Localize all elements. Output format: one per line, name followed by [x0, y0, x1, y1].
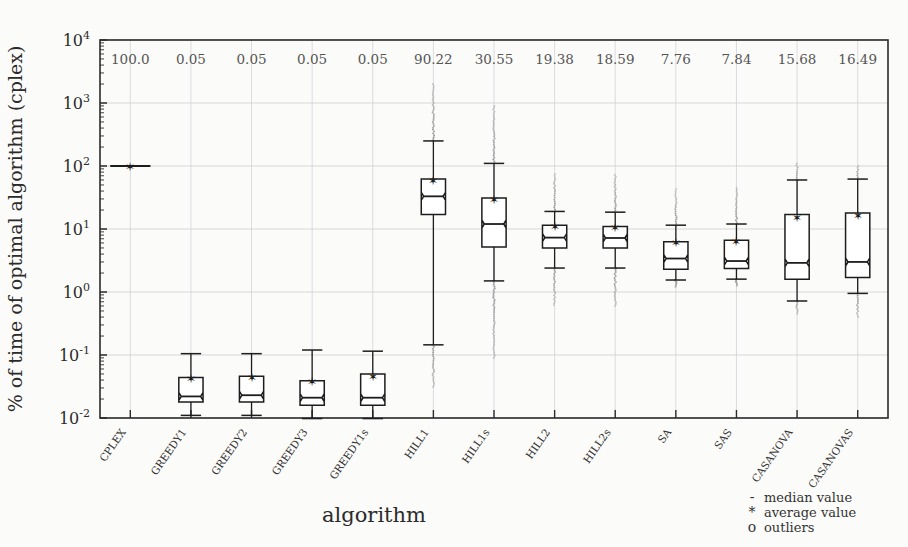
mean-marker: ✶	[853, 209, 863, 223]
outlier-point	[493, 308, 495, 310]
outlier-point	[432, 121, 434, 123]
x-axis-tick-label-hill2s: HILL2s	[580, 426, 612, 465]
outlier-point	[796, 175, 798, 177]
boxplot-hill1: ✶	[421, 83, 445, 388]
outlier-point	[493, 289, 495, 291]
outlier-point	[493, 314, 495, 316]
outlier-point	[675, 214, 677, 216]
top-annotation-hill1s: 30.55	[475, 51, 514, 67]
legend-marker-outliers: o	[748, 519, 756, 535]
mean-marker: ✶	[307, 375, 317, 389]
outlier-point	[856, 174, 858, 176]
outlier-point	[554, 173, 556, 175]
outlier-point	[493, 357, 495, 359]
outlier-point	[615, 271, 617, 273]
outlier-point	[432, 129, 434, 131]
outlier-point	[796, 173, 798, 175]
outlier-point	[796, 307, 798, 309]
outlier-point	[493, 141, 495, 143]
outlier-point	[493, 130, 495, 132]
outlier-point	[553, 289, 555, 291]
outlier-point	[857, 306, 859, 308]
top-annotation-sa: 7.76	[661, 51, 691, 67]
boxplot-sa: ✶	[664, 188, 688, 288]
outlier-point	[614, 192, 616, 194]
outlier-point	[736, 195, 738, 197]
outlier-point	[675, 286, 677, 288]
boxplot-hill1s: ✶	[482, 105, 506, 359]
outlier-point	[433, 87, 435, 89]
outlier-point	[735, 210, 737, 212]
outlier-point	[432, 104, 434, 106]
outlier-point	[553, 207, 555, 209]
outlier-point	[614, 207, 616, 209]
outlier-point	[674, 212, 676, 214]
boxplot-greedy1: ✶	[179, 354, 203, 416]
outlier-point	[614, 178, 616, 180]
outlier-point	[432, 123, 434, 125]
outlier-point	[553, 285, 555, 287]
outlier-point	[433, 85, 435, 87]
outlier-point	[615, 203, 617, 205]
outlier-point	[432, 96, 434, 98]
outlier-point	[736, 221, 738, 223]
outlier-point	[493, 312, 495, 314]
x-axis-tick-label-sa: SA	[655, 426, 674, 445]
outlier-point	[675, 206, 677, 208]
outlier-point	[735, 208, 737, 210]
outlier-point	[433, 125, 435, 127]
outlier-point	[615, 269, 617, 271]
outlier-point	[615, 196, 617, 198]
outlier-point	[553, 294, 555, 296]
outlier-point	[493, 116, 495, 118]
outlier-point	[433, 377, 435, 379]
mean-marker: ✶	[610, 221, 620, 235]
outlier-point	[615, 188, 617, 190]
outlier-point	[554, 269, 556, 271]
mean-marker: ✶	[186, 372, 196, 386]
outlier-point	[554, 300, 556, 302]
outlier-point	[675, 220, 677, 222]
outlier-point	[432, 127, 434, 129]
outlier-point	[493, 353, 495, 355]
outlier-point	[857, 316, 859, 318]
outlier-point	[492, 159, 494, 161]
outlier-point	[493, 105, 495, 107]
legend-label-average: average value	[764, 505, 857, 520]
outlier-point	[796, 177, 798, 179]
y-axis-tick-label: 101	[63, 218, 90, 239]
outlier-point	[736, 285, 738, 287]
outlier-point	[675, 188, 677, 190]
outlier-point	[554, 292, 556, 294]
outlier-point	[675, 196, 677, 198]
outlier-point	[554, 209, 556, 211]
outlier-point	[433, 119, 435, 121]
outlier-point	[492, 333, 494, 335]
outlier-point	[494, 134, 496, 136]
boxplot-casanovas: ✶	[846, 165, 870, 318]
x-axis-tick-label-cplex: CPLEX	[97, 426, 128, 464]
outlier-point	[857, 173, 859, 175]
outlier-point	[857, 296, 859, 298]
outlier-point	[553, 302, 555, 304]
outlier-point	[493, 349, 495, 351]
outlier-point	[433, 108, 435, 110]
outlier-point	[432, 91, 434, 93]
outlier-point	[614, 285, 616, 287]
outlier-point	[494, 138, 496, 140]
y-axis-tick-label: 10-2	[59, 407, 90, 428]
outlier-point	[493, 126, 495, 128]
outlier-point	[735, 202, 737, 204]
outlier-point	[432, 138, 434, 140]
outlier-point	[856, 304, 858, 306]
outlier-point	[492, 128, 494, 130]
outlier-point	[795, 306, 797, 308]
outlier-point	[553, 273, 555, 275]
outlier-point	[857, 314, 859, 316]
outlier-point	[493, 284, 495, 286]
top-annotation-casanovas: 16.49	[838, 51, 877, 67]
chart-svg: 10410310210110010-110-2% of time of opti…	[0, 0, 908, 547]
outlier-point	[735, 214, 737, 216]
outlier-point	[735, 219, 737, 221]
outlier-point	[614, 305, 616, 307]
